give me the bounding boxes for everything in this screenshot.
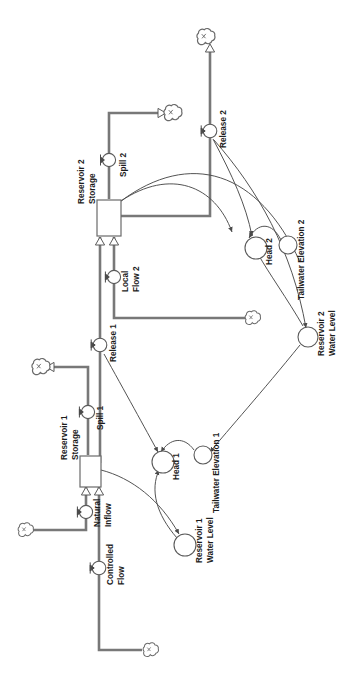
label-reservoir-1-water-level-line2: Water Level <box>206 517 215 563</box>
aux-tailwater-elevation-2[interactable] <box>279 236 297 254</box>
aux-reservoir-2-water-level[interactable] <box>298 327 318 347</box>
label-head2: Head 2 <box>265 238 274 265</box>
label-reservoir-2-storage-line1: Reservoir 2 <box>77 159 86 204</box>
label-release1: Release 1 <box>109 324 118 362</box>
aux-head1[interactable] <box>152 451 174 473</box>
aux-reservoir-1-water-level[interactable] <box>174 534 196 556</box>
diagram-canvas: Reservoir 2 Storage Spill 2 Release 2 Lo… <box>0 0 350 682</box>
label-natural-inflow-line2: Inflow <box>104 503 113 527</box>
label-tailwater-elevation-1: Tailwater Elevation 1 <box>212 432 221 513</box>
label-natural-inflow-line1: Natural <box>93 499 102 527</box>
aux-head2[interactable] <box>245 237 267 259</box>
stock-flow-diagram: Reservoir 2 Storage Spill 2 Release 2 Lo… <box>0 0 350 682</box>
aux-tailwater-elevation-1[interactable] <box>194 446 212 464</box>
label-release2: Release 2 <box>219 110 228 148</box>
label-spill2: Spill 2 <box>119 152 128 177</box>
label-head1: Head 1 <box>172 453 181 480</box>
label-local-flow2-line2: Flow 2 <box>132 266 141 292</box>
label-reservoir-1-water-level-line1: Reservoir 1 <box>195 518 204 563</box>
label-reservoir-2-storage-line2: Storage <box>88 173 97 204</box>
label-spill1: Spill 1 <box>96 405 105 430</box>
label-controlled-flow-line1: Controlled <box>106 544 115 585</box>
stock-reservoir-1-storage[interactable] <box>80 456 101 487</box>
diagram-background <box>0 0 350 682</box>
label-reservoir-1-storage-line2: Storage <box>71 429 80 460</box>
label-reservoir-2-water-level-line2: Water Level <box>328 310 337 356</box>
label-reservoir-2-water-level-line1: Reservoir 2 <box>317 311 326 356</box>
stock-reservoir-2-storage[interactable] <box>97 200 121 236</box>
label-local-flow2-line1: Local <box>121 271 130 292</box>
label-reservoir-1-storage-line1: Reservoir 1 <box>60 415 69 460</box>
label-tailwater-elevation-2: Tailwater Elevation 2 <box>297 219 306 300</box>
label-controlled-flow-line2: Flow <box>117 566 126 585</box>
